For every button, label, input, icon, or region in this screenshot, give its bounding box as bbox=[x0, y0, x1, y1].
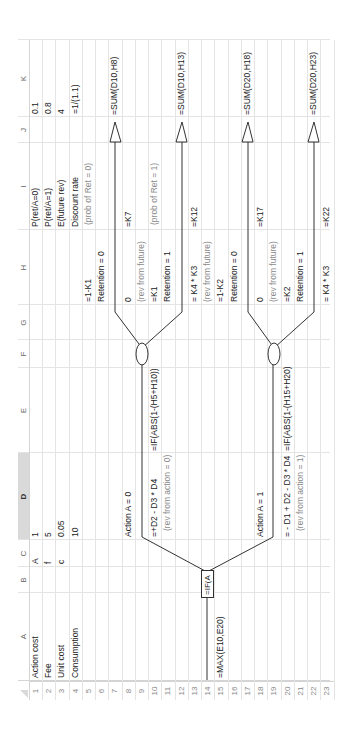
chance-node-icon bbox=[268, 343, 280, 365]
cell-k12-sum[interactable]: =SUM(D10,H13) bbox=[175, 52, 188, 115]
cell-i18-prob-ref[interactable]: =K17 bbox=[254, 207, 267, 227]
branch-retention-1-a1 bbox=[274, 142, 314, 348]
cell-d4[interactable]: 10 bbox=[69, 528, 82, 537]
cell-h18-future-rev[interactable]: 0 bbox=[254, 297, 267, 302]
spreadsheet-grid[interactable]: A B C D E F G H I J K 1 2 3 4 5 6 7 8 9 … bbox=[0, 0, 348, 732]
cell-h9-future-note[interactable]: (rev from future) bbox=[135, 241, 148, 302]
cell-h14-future-note[interactable]: (rev from future) bbox=[201, 241, 214, 302]
cell-i10-prob-note[interactable]: (prob of Ret = 1) bbox=[148, 163, 161, 225]
branch-action-1 bbox=[207, 360, 273, 572]
cell-i13-prob-ref[interactable]: =K12 bbox=[188, 207, 201, 227]
cell-h6-retention[interactable]: Retention = 0 bbox=[95, 251, 108, 302]
cell-c1[interactable]: A bbox=[29, 558, 42, 564]
cell-h8-future-rev[interactable]: 0 bbox=[122, 297, 135, 302]
chance-node-icon bbox=[136, 343, 148, 365]
cell-k4[interactable]: =1/(1.1) bbox=[69, 84, 82, 114]
decision-node-box[interactable]: =IF(A bbox=[201, 570, 214, 598]
cell-k2[interactable]: 0.8 bbox=[42, 102, 55, 114]
cell-d2[interactable]: 5 bbox=[42, 532, 55, 537]
cell-i5-prob-note[interactable]: (prob of Ret = 0) bbox=[82, 163, 95, 225]
cell-h19-future-note[interactable]: (rev from future) bbox=[267, 241, 280, 302]
cell-k1[interactable]: 0.1 bbox=[29, 102, 42, 114]
cell-k17-sum[interactable]: =SUM(D20,H18) bbox=[241, 52, 254, 115]
cell-h20-prob[interactable]: =K2 bbox=[281, 287, 294, 302]
cell-d3[interactable]: 0.05 bbox=[55, 520, 68, 537]
cell-a15-root-formula[interactable]: =MAX(E10,E20) bbox=[214, 616, 227, 678]
cell-d21-action1-note[interactable]: (rev from action = 1) bbox=[294, 455, 307, 531]
cell-a1[interactable]: Action cost bbox=[29, 636, 42, 678]
cell-i2[interactable]: P(ret/A=1) bbox=[42, 188, 55, 227]
cell-h13-future-rev[interactable]: = K4 * K3 bbox=[188, 266, 201, 302]
cell-h16-retention[interactable]: Retention = 0 bbox=[228, 251, 241, 302]
cell-d10-action0-rev[interactable]: =+D2 - D3 * D4 bbox=[148, 479, 161, 537]
cell-e20-action1-ev[interactable]: =IF(ABS(1-(H15+H20) bbox=[281, 366, 294, 451]
cell-d11-action0-note[interactable]: (rev from action = 0) bbox=[161, 455, 174, 531]
cell-d20-action1-rev[interactable]: = - D1 + D2 - D3 * D4 bbox=[281, 456, 294, 537]
terminal-node-icon bbox=[308, 122, 319, 142]
cell-h11-retention[interactable]: Retention = 1 bbox=[161, 251, 174, 302]
cell-d1[interactable]: 1 bbox=[29, 532, 42, 537]
cell-c2[interactable]: f bbox=[42, 562, 55, 564]
cell-a4[interactable]: Consumption bbox=[69, 628, 82, 678]
cell-a2[interactable]: Fee bbox=[42, 663, 55, 678]
cell-h21-retention[interactable]: Retention = 1 bbox=[294, 251, 307, 302]
cell-k22-sum[interactable]: =SUM(D20,H23) bbox=[307, 52, 320, 115]
cell-h23-future-rev[interactable]: = K4 * K3 bbox=[320, 266, 333, 302]
cell-h10-prob[interactable]: =K1 bbox=[148, 287, 161, 302]
cell-k7-sum[interactable]: =SUM(D10,H8) bbox=[108, 57, 121, 115]
cell-d8-action0-label[interactable]: Action A = 0 bbox=[122, 492, 135, 537]
terminal-node-icon bbox=[176, 122, 187, 142]
cell-h5-prob[interactable]: =1-K1 bbox=[82, 279, 95, 302]
cell-i23-prob-ref[interactable]: =K22 bbox=[320, 207, 333, 227]
cell-d18-action1-label[interactable]: Action A = 1 bbox=[254, 492, 267, 537]
cell-c3[interactable]: c bbox=[55, 560, 68, 564]
cell-i1[interactable]: P(ret/A=0) bbox=[29, 188, 42, 227]
cell-h15-prob[interactable]: =1-K2 bbox=[214, 279, 227, 302]
cell-i3[interactable]: E(future rev) bbox=[55, 180, 68, 227]
terminal-node-icon bbox=[242, 122, 253, 142]
cell-i4[interactable]: Discount rate bbox=[69, 177, 82, 227]
cell-a3[interactable]: Unit cost bbox=[55, 645, 68, 678]
cell-k3[interactable]: 4 bbox=[55, 109, 68, 114]
cell-e10-action0-ev[interactable]: =IF(ABS(1-(H5+H10)) bbox=[148, 368, 161, 451]
cell-i8-prob-ref[interactable]: =K7 bbox=[122, 212, 135, 227]
terminal-node-icon bbox=[110, 122, 121, 142]
